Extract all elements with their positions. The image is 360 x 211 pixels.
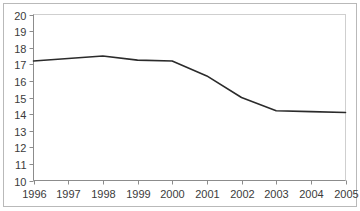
y-axis-tick-labels: 1011121314151617181920 [14,10,26,188]
x-tick-label: 2002 [230,188,254,200]
x-tick-label: 2003 [264,188,288,200]
y-tick-label: 18 [14,43,26,55]
y-tick-label: 20 [14,10,26,22]
x-axis-tick-labels: 1996199719981999200020012002200320042005 [22,188,358,200]
x-tick-label: 2005 [334,188,358,200]
x-tick-label: 2000 [160,188,184,200]
x-tick-label: 1998 [91,188,115,200]
x-tick-label: 2001 [195,188,219,200]
x-tick-label: 1996 [22,188,46,200]
y-tick-label: 17 [14,59,26,71]
x-tick-label: 2004 [299,188,323,200]
y-tick-label: 10 [14,176,26,188]
plot-area-background [34,15,346,181]
chart-canvas: 1011121314151617181920 19961997199819992… [0,0,360,211]
line-chart-figure: 1011121314151617181920 19961997199819992… [0,0,360,211]
y-tick-label: 13 [14,126,26,138]
y-tick-label: 12 [14,142,26,154]
y-axis-ticks [30,16,34,182]
y-tick-label: 11 [15,159,26,171]
y-tick-label: 14 [14,109,26,121]
x-axis-ticks [35,181,347,185]
x-tick-label: 1997 [56,188,80,200]
x-tick-label: 1999 [126,188,150,200]
y-tick-label: 15 [14,93,26,105]
y-tick-label: 16 [14,76,26,88]
y-tick-label: 19 [14,26,26,38]
